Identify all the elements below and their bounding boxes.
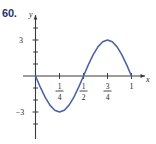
fraction-numerator: 3 bbox=[106, 82, 110, 91]
x-tick-label-three-quarters: 3 4 bbox=[104, 82, 112, 102]
y-axis-label: y bbox=[28, 10, 33, 19]
fraction-numerator: 1 bbox=[58, 82, 62, 91]
y-tick-label-3: 3 bbox=[19, 36, 23, 45]
y-tick-label-neg3: −3 bbox=[16, 108, 25, 117]
fraction-numerator: 1 bbox=[82, 82, 86, 91]
x-tick-label-one: 1 bbox=[130, 82, 134, 91]
x-tick-label-one-half: 1 2 bbox=[80, 82, 88, 102]
fraction-denominator: 4 bbox=[106, 93, 110, 102]
figure-container: 60. bbox=[0, 0, 156, 144]
x-axis-label: x bbox=[145, 75, 150, 84]
x-tick-label-one-quarter: 1 4 bbox=[56, 82, 64, 102]
fraction-denominator: 4 bbox=[58, 93, 62, 102]
graph-plot: y x 3 −3 1 4 1 2 3 4 1 bbox=[0, 0, 156, 144]
fraction-denominator: 2 bbox=[82, 93, 86, 102]
